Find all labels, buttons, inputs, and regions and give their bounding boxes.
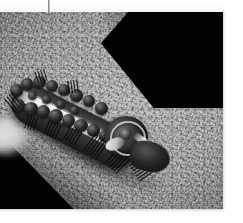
caterpillar-tubercle [21, 78, 33, 90]
caterpillar-tubercle [24, 102, 38, 115]
caterpillar-tubercle [28, 91, 37, 100]
paper-bottom-margin-shade [0, 209, 223, 212]
caterpillar-bristle-tuft [67, 79, 81, 94]
paper-right-margin [223, 0, 243, 223]
paper-top-margin [0, 0, 243, 12]
crop-mark-tick-highlight-icon [49, 0, 50, 12]
screenshot-canvas: Black-and-white photograph of a spiny ca… [0, 0, 243, 223]
caterpillar-tubercle [70, 106, 79, 115]
caterpillar-tubercle [42, 95, 51, 104]
caterpillar-tubercle [83, 95, 95, 107]
caterpillar-tubercle [95, 102, 108, 115]
photograph [0, 12, 223, 209]
caterpillar-tubercle [46, 80, 58, 92]
paper-right-margin-shade [223, 12, 226, 209]
caterpillar-tubercle [56, 100, 65, 109]
caterpillar-subject [6, 64, 174, 176]
